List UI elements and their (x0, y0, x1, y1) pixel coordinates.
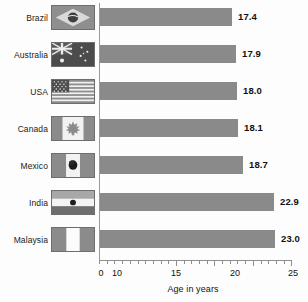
flag-india-svg (52, 191, 94, 214)
bar-value-usa: 18.0 (243, 82, 262, 100)
x-axis-title: Age in years (0, 284, 308, 294)
bar-brazil (99, 8, 232, 26)
x-tick-minor (207, 260, 208, 264)
bar-value-mexico: 18.7 (249, 156, 268, 174)
flag-canada-icon (51, 116, 95, 141)
bar-value-canada: 18.1 (244, 119, 263, 137)
flag-australia-svg (52, 43, 94, 66)
x-tick-minor (122, 260, 123, 264)
x-tick-minor (99, 260, 100, 264)
bar-canada (99, 119, 238, 137)
x-tick-minor (261, 260, 262, 264)
bar-mexico (99, 156, 243, 174)
x-tick-minor (230, 260, 231, 264)
x-tick-label-10: 10 (112, 268, 122, 278)
category-label-usa: USA (0, 87, 48, 97)
x-tick-minor (107, 260, 108, 264)
category-label-india: India (0, 198, 48, 208)
y-axis-line (99, 3, 100, 260)
chart-row-brazil: Brazil 17.4 (0, 0, 308, 37)
x-tick-minor (130, 260, 131, 264)
flag-mexico-icon (51, 153, 95, 178)
chart-row-india: India 22.9 (0, 185, 308, 222)
bar-chart: Brazil 17.4 Australia (0, 0, 308, 302)
x-tick-minor (161, 260, 162, 264)
bar-australia (99, 45, 236, 63)
flag-malaysia-svg (52, 228, 94, 251)
bar-india (99, 193, 274, 211)
chart-row-malaysia: Malaysia 23.0 (0, 222, 308, 259)
chart-row-canada: Canada 18.1 (0, 111, 308, 148)
chart-row-australia: Australia 17.9 (0, 37, 308, 74)
plot-area: Brazil 17.4 Australia (0, 0, 308, 260)
x-axis-line (99, 260, 291, 261)
bar-value-australia: 17.9 (242, 45, 261, 63)
category-label-mexico: Mexico (0, 161, 48, 171)
x-tick-minor (276, 260, 277, 264)
flag-australia-icon (51, 42, 95, 67)
x-tick-label-25: 25 (288, 268, 298, 278)
flag-india-icon (51, 190, 95, 215)
flag-canada-svg (52, 117, 94, 140)
flag-brazil-svg (52, 6, 94, 29)
category-label-brazil: Brazil (0, 13, 48, 23)
x-tick-minor (145, 260, 146, 264)
x-tick-minor (184, 260, 185, 264)
flag-mexico-svg (52, 154, 94, 177)
x-tick-major (253, 260, 254, 266)
x-tick-major (214, 260, 215, 266)
x-tick-minor (199, 260, 200, 264)
x-tick-minor (237, 260, 238, 264)
x-tick-minor (168, 260, 169, 264)
x-tick-minor (191, 260, 192, 264)
flag-malaysia-icon (51, 227, 95, 252)
x-tick-minor (284, 260, 285, 264)
x-tick-major (176, 260, 177, 266)
x-tick-minor (153, 260, 154, 264)
bar-value-malaysia: 23.0 (281, 230, 300, 248)
flag-brazil-icon (51, 5, 95, 30)
flag-usa-svg (52, 80, 94, 103)
x-tick-label-20: 20 (230, 268, 240, 278)
x-tick-label-15: 15 (171, 268, 181, 278)
x-tick-label-0: 0 (98, 268, 103, 278)
chart-row-usa: USA (0, 74, 308, 111)
category-label-canada: Canada (0, 124, 48, 134)
bar-malaysia (99, 230, 275, 248)
x-tick-major (291, 260, 292, 266)
x-tick-minor (114, 260, 115, 264)
x-tick-minor (245, 260, 246, 264)
flag-usa-icon (51, 79, 95, 104)
chart-row-mexico: Mexico 18.7 (0, 148, 308, 185)
bar-value-india: 22.9 (280, 193, 299, 211)
category-label-malaysia: Malaysia (0, 235, 48, 245)
category-label-australia: Australia (0, 50, 48, 60)
bar-usa (99, 82, 237, 100)
x-tick-minor (222, 260, 223, 264)
bar-value-brazil: 17.4 (238, 8, 257, 26)
x-tick-minor (268, 260, 269, 264)
x-tick-minor (138, 260, 139, 264)
